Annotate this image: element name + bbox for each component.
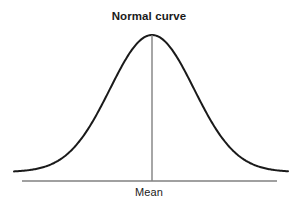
normal-curve-figure: Normal curve Mean [0,0,298,206]
normal-curve-plot [0,0,298,206]
mean-axis-label: Mean [0,187,298,198]
normal-distribution-curve [14,35,288,171]
